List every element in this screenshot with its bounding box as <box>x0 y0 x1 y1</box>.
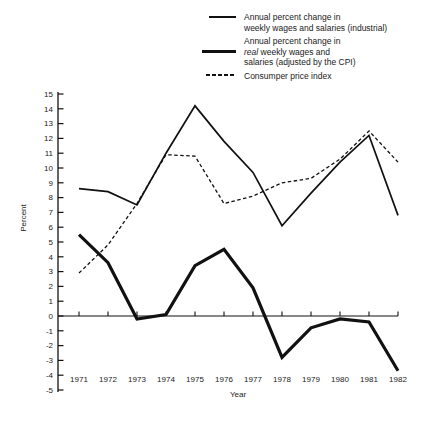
y-tick-label: -4 <box>46 371 54 380</box>
y-tick-label: 10 <box>44 164 53 173</box>
x-tick-label: 1979 <box>302 375 320 384</box>
y-tick-label: 11 <box>45 149 54 158</box>
y-tick-label: 12 <box>44 134 53 143</box>
x-tick-label: 1978 <box>273 375 291 384</box>
y-tick-label: 15 <box>44 90 53 99</box>
y-tick-label: 2 <box>49 282 54 291</box>
x-tick-label: 1971 <box>70 375 88 384</box>
y-tick-label: 6 <box>49 223 54 232</box>
x-axis-title: Year <box>230 390 247 399</box>
series-line-thin-solid <box>79 106 398 226</box>
y-tick-label: 3 <box>49 267 54 276</box>
series-layer <box>79 106 398 371</box>
x-tick-label: 1980 <box>331 375 349 384</box>
x-tick-label: 1976 <box>215 375 233 384</box>
x-tick-label: 1982 <box>389 375 407 384</box>
x-tick-label: 1973 <box>128 375 146 384</box>
y-tick-label: 14 <box>44 105 53 114</box>
chart-figure: Annual percent change in weekly wages an… <box>0 0 424 422</box>
y-tick-label: 13 <box>44 119 53 128</box>
x-tick-label: 1972 <box>99 375 117 384</box>
y-tick-label: 9 <box>49 179 54 188</box>
y-axis-title: Percent <box>19 203 28 231</box>
y-tick-label: 8 <box>49 193 54 202</box>
y-tick-label: -2 <box>46 341 54 350</box>
x-tick-label: 1981 <box>360 375 378 384</box>
y-tick-label: -5 <box>46 386 54 395</box>
y-tick-label: 4 <box>49 253 54 262</box>
y-tick-label: 5 <box>49 238 54 247</box>
y-tick-label: 1 <box>49 297 54 306</box>
y-tick-label: -1 <box>46 327 54 336</box>
x-tick-label: 1977 <box>244 375 262 384</box>
line-chart: 1514131211109876543210-1-2-3-4-519711972… <box>0 0 424 422</box>
y-tick-label: 7 <box>49 208 54 217</box>
x-tick-label: 1975 <box>186 375 204 384</box>
y-tick-label: 0 <box>49 312 54 321</box>
series-line-thick-solid <box>79 235 398 371</box>
axis-layer: 1514131211109876543210-1-2-3-4-519711972… <box>44 90 407 395</box>
y-tick-label: -3 <box>46 356 54 365</box>
x-tick-label: 1974 <box>157 375 175 384</box>
